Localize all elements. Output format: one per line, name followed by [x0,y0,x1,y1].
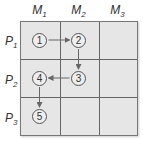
operation-node-1: 1 [32,33,47,48]
operation-node-4: 4 [32,71,47,86]
operation-node-5: 5 [32,109,47,124]
edge-layer [0,0,143,145]
operation-node-2: 2 [71,33,86,48]
operation-node-3: 3 [71,71,86,86]
